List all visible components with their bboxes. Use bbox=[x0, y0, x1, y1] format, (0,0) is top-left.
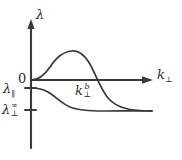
lambda-parallel-base: λ bbox=[3, 81, 11, 96]
lambda-parallel-tick-label: λ‖ bbox=[3, 80, 15, 98]
k-perp-b-subscript: ⊥ bbox=[83, 91, 90, 99]
lambda-parallel-subscript: ‖ bbox=[11, 89, 15, 98]
horizontal-axis-arrowhead bbox=[142, 76, 153, 84]
k-perp-b-annotation: kb⊥ bbox=[75, 82, 91, 98]
k-perp-b-script-stack: b⊥ bbox=[83, 83, 90, 98]
lower-branch-curve bbox=[31, 88, 152, 111]
lambda-perp-infinity-subscript: ⊥ bbox=[11, 110, 18, 118]
lambda-perp-infinity-base: λ bbox=[2, 102, 10, 117]
origin-value: 0 bbox=[18, 71, 26, 86]
plot-canvas bbox=[0, 0, 182, 160]
k-perp-axis-subscript: ⊥ bbox=[165, 75, 172, 84]
k-perp-axis-label: k⊥ bbox=[157, 66, 172, 84]
figure-root: λ 0 λ‖ λ∞⊥ k⊥ kb⊥ bbox=[0, 0, 182, 160]
k-perp-axis-base: k bbox=[157, 67, 165, 82]
lambda-perp-infinity-tick-label: λ∞⊥ bbox=[2, 101, 18, 117]
lambda-perp-infinity-script-stack: ∞⊥ bbox=[11, 102, 18, 117]
lambda-axis-label: λ bbox=[36, 6, 44, 22]
origin-tick-label: 0 bbox=[18, 70, 26, 86]
vertical-axis-arrowhead bbox=[27, 19, 34, 29]
lambda-axis-glyph: λ bbox=[36, 7, 44, 22]
k-perp-b-base: k bbox=[75, 83, 83, 98]
